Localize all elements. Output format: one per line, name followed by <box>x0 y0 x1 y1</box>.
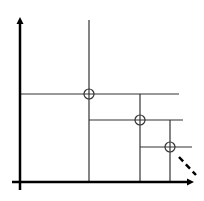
dashed-continuation <box>179 157 196 175</box>
axes <box>12 17 194 190</box>
x-axis-arrow-icon <box>187 179 194 186</box>
dashed-line <box>179 157 196 175</box>
y-axis-arrow-icon <box>17 17 24 24</box>
staircase-diagram <box>0 0 204 201</box>
grid-lines <box>20 20 192 182</box>
